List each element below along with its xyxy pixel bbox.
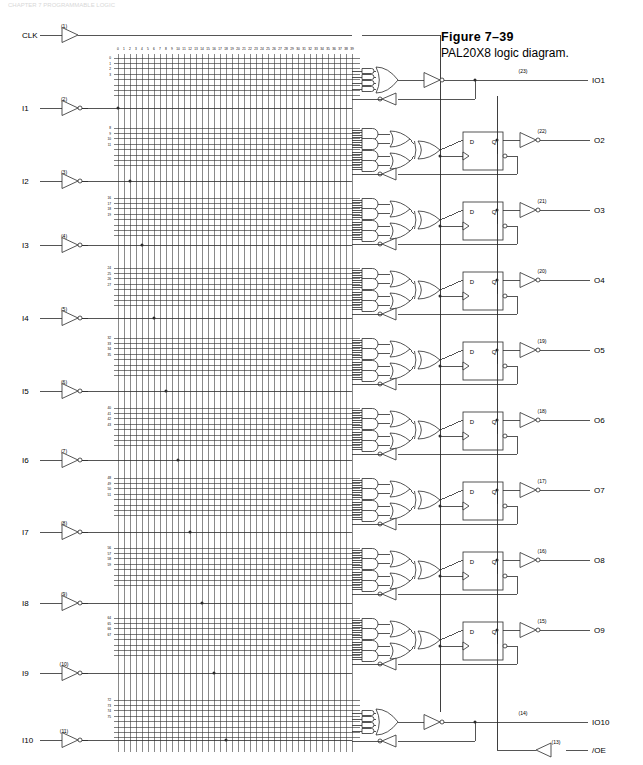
input-buffer-I8 — [62, 596, 78, 611]
array-column-label-24: 24 — [260, 47, 264, 51]
input-connect-dot-a-I2 — [129, 180, 132, 183]
or-input-b-O7 — [378, 493, 390, 494]
and-gate-O7-0-1 — [362, 489, 378, 500]
ff-clock-input-O6 — [463, 432, 469, 440]
xor-input-O3-1 — [410, 226, 414, 231]
and-gate-O5-0-0 — [362, 339, 378, 350]
array-row-label-27: 27 — [107, 283, 111, 287]
and-gate-O4-1-0 — [362, 291, 378, 302]
ff-qbar-bubble-O2 — [503, 154, 507, 158]
xor-input-O2-1 — [410, 156, 414, 161]
ff-clock-input-O3 — [463, 222, 469, 230]
input-connect-dot-a-I6 — [177, 459, 180, 462]
array-column-label-25: 25 — [266, 47, 270, 51]
xor-gate-O9 — [418, 631, 440, 649]
feedback-buffer-IO10 — [382, 735, 396, 747]
array-column-label-2: 2 — [129, 47, 131, 51]
xor-to-ff-O2 — [440, 140, 463, 150]
and-gate-O8-0-0 — [362, 549, 378, 560]
xor-input-O7-0 — [410, 489, 414, 494]
xor-input-O7-1 — [410, 506, 414, 511]
output-label-O9: O9 — [594, 626, 605, 635]
output-pin-number-O3: (21) — [538, 198, 547, 204]
ff-qbar-bubble-O6 — [503, 434, 507, 438]
output-buffer-O8-bubble — [536, 558, 540, 562]
array-row-label-19: 19 — [107, 213, 111, 217]
ff-qbar-bubble-O5 — [503, 364, 507, 368]
array-row-label-25: 25 — [107, 272, 111, 276]
or-input-b-O3 — [378, 235, 390, 236]
output-buffer-O7-bubble — [536, 488, 540, 492]
and-gate-O4-1-1 — [362, 301, 378, 312]
or-gate-IO10 — [376, 709, 398, 735]
input-buffer-I2-bubble — [78, 179, 82, 183]
array-column-label-23: 23 — [254, 47, 258, 51]
and-gate-O9-1-1 — [362, 651, 378, 662]
xor-gate-O7-extra-arc — [415, 491, 416, 509]
or-gate-O2-0 — [390, 131, 410, 147]
ff-clock-input-O5 — [463, 362, 469, 370]
input-label-I4: I4 — [22, 314, 29, 323]
input-buffer-I2 — [62, 174, 78, 189]
array-column-label-7: 7 — [159, 47, 161, 51]
output-pin-number-O5: (19) — [538, 338, 547, 344]
ff-d-label-O8: D — [470, 559, 475, 565]
output-pin-number-O6: (18) — [538, 408, 547, 414]
or-gate-O9-1 — [390, 643, 410, 659]
array-column-label-3: 3 — [135, 47, 137, 51]
array-column-label-1: 1 — [123, 47, 125, 51]
or-gate-O4-0 — [390, 271, 410, 287]
ff-qbar-bubble-O3 — [503, 224, 507, 228]
array-column-label-30: 30 — [296, 47, 300, 51]
and-gate-O9-0-0 — [362, 619, 378, 630]
xor-input-O6-0 — [410, 419, 414, 424]
or-gate-O3-1 — [390, 223, 410, 239]
or-input-a-O5 — [378, 344, 390, 345]
output-buffer-O3-bubble — [536, 208, 540, 212]
ff-d-label-O4: D — [470, 279, 475, 285]
and-gate-O5-1-0 — [362, 361, 378, 372]
input-buffer-CLK — [62, 28, 78, 43]
output-buffer-O4 — [520, 273, 536, 288]
or-gate-IO1 — [376, 67, 398, 93]
array-row-label-3: 3 — [109, 73, 111, 77]
array-column-label-21: 21 — [242, 47, 246, 51]
array-row-label-67: 67 — [107, 633, 111, 637]
input-connect-dot-a-I8 — [201, 602, 204, 605]
or-input-b-O9 — [378, 633, 390, 634]
array-column-label-36: 36 — [332, 47, 336, 51]
input-buffer-I9-bubble — [78, 671, 82, 675]
input-buffer-I6 — [62, 453, 78, 468]
array-column-label-28: 28 — [284, 47, 288, 51]
array-row-label-1: 1 — [109, 62, 111, 66]
feedback-buffer-O8 — [382, 588, 396, 600]
array-column-label-38: 38 — [344, 47, 348, 51]
array-row-label-11: 11 — [108, 143, 112, 147]
or-gate-O8-0 — [390, 551, 410, 567]
feedback-buffer-O9 — [382, 658, 396, 670]
or-input-a-O3 — [378, 226, 390, 227]
array-column-label-32: 32 — [308, 47, 312, 51]
array-row-label-18: 18 — [107, 207, 111, 211]
and-gate-O8-0-1 — [362, 559, 378, 570]
input-buffer-I10-bubble — [78, 738, 82, 742]
and-gate-O7-1-0 — [362, 501, 378, 512]
or-input-b-O4 — [378, 305, 390, 306]
ff-clock-input-O8 — [463, 572, 469, 580]
output-buffer-O5 — [520, 343, 536, 358]
array-column-label-10: 10 — [176, 47, 180, 51]
output-buffer-O7 — [520, 483, 536, 498]
xor-gate-O2-extra-arc — [415, 141, 416, 159]
input-connect-dot-a-I10 — [225, 739, 228, 742]
ff-d-label-O9: D — [470, 629, 475, 635]
input-buffer-I8-bubble — [78, 601, 82, 605]
array-row-label-8: 8 — [109, 126, 111, 130]
and-gate-IO10-2 — [362, 723, 374, 728]
or-input-b-O2 — [378, 143, 390, 144]
or-gate-O7-1 — [390, 503, 410, 519]
and-gate-IO10-3 — [362, 729, 374, 734]
array-column-label-0: 0 — [117, 47, 119, 51]
xor-to-ff-O8 — [440, 560, 463, 570]
input-label-I8: I8 — [22, 599, 29, 608]
array-column-label-26: 26 — [272, 47, 276, 51]
